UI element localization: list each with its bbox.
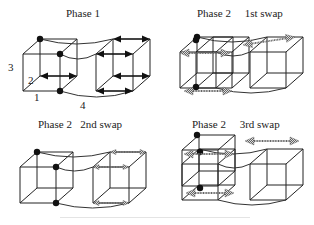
panel-phase2-swap1 — [180, 34, 303, 95]
right-cube-edge — [129, 188, 146, 203]
right-cube-edge — [286, 149, 303, 164]
dimension4-link — [218, 200, 286, 205]
left-cube-shifted-edge — [218, 135, 235, 150]
dimension-label-1: 1 — [34, 91, 40, 103]
swap-arrow-head — [290, 137, 299, 145]
right-cube-edge — [133, 76, 150, 91]
left-cube-edge — [20, 188, 37, 203]
right-cube-edge — [133, 39, 150, 54]
left-cube-edge — [60, 39, 77, 54]
swap-arrow-head — [245, 137, 254, 145]
exchange-arrow-head — [40, 73, 48, 80]
node — [34, 149, 40, 155]
dimension4-link — [218, 164, 250, 168]
left-cube-edge — [216, 37, 233, 52]
panel-phase2-swap3 — [182, 132, 303, 205]
exchange-arrow-head — [142, 36, 150, 43]
exchange-arrow-head — [96, 51, 104, 58]
swap-arrow-head — [123, 165, 129, 170]
node — [57, 88, 63, 94]
swap-arrow-head — [93, 201, 99, 206]
node — [57, 51, 63, 57]
exchange-arrow-head — [142, 73, 150, 80]
dimension-label-3: 3 — [8, 61, 14, 73]
left-cube-edge — [20, 152, 37, 167]
left-cube-edge — [56, 152, 73, 167]
node — [194, 132, 200, 138]
node — [53, 200, 59, 206]
exchange-arrow-head — [113, 36, 121, 43]
exchange-arrow-head — [96, 88, 104, 95]
panel-title-phase2-swap1: Phase 2 1st swap — [197, 7, 283, 19]
right-cube-edge — [250, 185, 267, 200]
node — [37, 36, 43, 42]
node — [53, 164, 59, 170]
left-cube-edge — [56, 188, 73, 203]
right-cube-edge — [286, 73, 303, 88]
right-cube-edge — [129, 152, 146, 167]
exchange-arrow-head — [113, 73, 121, 80]
right-cube-edge — [286, 185, 303, 200]
right-cube-edge — [96, 76, 113, 91]
dimension4-link — [60, 91, 133, 97]
panel-phase1 — [23, 36, 150, 98]
dimension4-link — [56, 203, 129, 208]
exchange-arrow-head — [125, 88, 133, 95]
left-cube-edge — [60, 76, 77, 91]
swap-arrow-head — [285, 34, 295, 42]
node — [193, 84, 199, 90]
left-cube-shifted-edge — [182, 171, 199, 186]
left-cube-shifted-edge — [232, 73, 249, 88]
hypercube-diagram: Phase 1 Phase 2 1st swap Phase 2 2nd swa… — [0, 0, 314, 225]
swap-arrow-head — [123, 201, 129, 206]
dimension4-link — [60, 54, 96, 59]
panel-phase2-swap2 — [20, 149, 146, 208]
left-cube-shifted-edge — [218, 171, 235, 186]
exchange-arrow-head — [125, 51, 133, 58]
right-cube-edge — [93, 188, 110, 203]
node — [197, 185, 203, 191]
panel-title-phase2-swap3: Phase 2 3rd swap — [192, 118, 280, 130]
figure-caption — [60, 217, 250, 218]
swap-arrow-head — [93, 165, 99, 170]
panel-title-phase1: Phase 1 — [66, 7, 100, 19]
panel-title-phase2-swap2: Phase 2 2nd swap — [38, 118, 123, 130]
left-cube-edge — [216, 73, 233, 88]
dimension4-link — [56, 167, 93, 171]
swap-arrow-head — [140, 150, 146, 155]
exchange-arrow-head — [69, 73, 77, 80]
node — [193, 37, 199, 43]
swap-arrow-head — [184, 150, 193, 158]
left-cube-edge — [23, 39, 40, 54]
dimension-label-4: 4 — [80, 99, 86, 111]
swap-arrow-head — [110, 150, 116, 155]
right-cube-edge — [250, 73, 267, 88]
